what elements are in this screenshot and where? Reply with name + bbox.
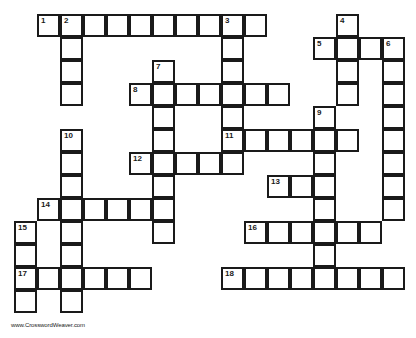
- crossword-cell[interactable]: 16: [244, 221, 267, 244]
- crossword-cell[interactable]: 3: [221, 14, 244, 37]
- crossword-cell[interactable]: 15: [14, 221, 37, 244]
- crossword-cell[interactable]: 8: [129, 83, 152, 106]
- crossword-cell[interactable]: [382, 198, 405, 221]
- crossword-cell[interactable]: [290, 129, 313, 152]
- crossword-cell[interactable]: [221, 106, 244, 129]
- crossword-cell[interactable]: [129, 267, 152, 290]
- crossword-cell[interactable]: [244, 83, 267, 106]
- crossword-cell[interactable]: [221, 83, 244, 106]
- crossword-cell[interactable]: 18: [221, 267, 244, 290]
- crossword-cell[interactable]: 2: [60, 14, 83, 37]
- crossword-cell[interactable]: [83, 198, 106, 221]
- crossword-cell[interactable]: 13: [267, 175, 290, 198]
- crossword-cell[interactable]: [198, 83, 221, 106]
- crossword-cell[interactable]: [175, 14, 198, 37]
- crossword-cell[interactable]: [336, 37, 359, 60]
- crossword-cell[interactable]: 10: [60, 129, 83, 152]
- crossword-cell[interactable]: [359, 221, 382, 244]
- crossword-cell[interactable]: [60, 175, 83, 198]
- crossword-cell[interactable]: [382, 83, 405, 106]
- crossword-cell[interactable]: [336, 267, 359, 290]
- crossword-cell[interactable]: 9: [313, 106, 336, 129]
- crossword-cell[interactable]: 11: [221, 129, 244, 152]
- crossword-cell[interactable]: [359, 267, 382, 290]
- crossword-cell[interactable]: [152, 14, 175, 37]
- crossword-cell[interactable]: [175, 83, 198, 106]
- clue-number: 12: [133, 154, 142, 163]
- crossword-cell[interactable]: [221, 60, 244, 83]
- crossword-cell[interactable]: [313, 129, 336, 152]
- crossword-cell[interactable]: [106, 198, 129, 221]
- crossword-cell[interactable]: [313, 152, 336, 175]
- clue-number: 9: [317, 108, 321, 117]
- crossword-cell[interactable]: [336, 129, 359, 152]
- clue-number: 13: [271, 177, 280, 186]
- crossword-cell[interactable]: [267, 267, 290, 290]
- crossword-cell[interactable]: 17: [14, 267, 37, 290]
- crossword-cell[interactable]: [313, 198, 336, 221]
- crossword-cell[interactable]: [37, 267, 60, 290]
- crossword-cell[interactable]: [60, 198, 83, 221]
- crossword-cell[interactable]: [152, 152, 175, 175]
- crossword-cell[interactable]: [60, 60, 83, 83]
- crossword-cell[interactable]: [60, 244, 83, 267]
- crossword-cell[interactable]: [198, 14, 221, 37]
- crossword-cell[interactable]: [175, 152, 198, 175]
- crossword-cell[interactable]: [198, 152, 221, 175]
- crossword-cell[interactable]: 12: [129, 152, 152, 175]
- crossword-cell[interactable]: [152, 198, 175, 221]
- crossword-cell[interactable]: [382, 152, 405, 175]
- crossword-cell[interactable]: [60, 290, 83, 313]
- crossword-cell[interactable]: [60, 221, 83, 244]
- crossword-cell[interactable]: [382, 60, 405, 83]
- crossword-cell[interactable]: [244, 129, 267, 152]
- crossword-cell[interactable]: [244, 267, 267, 290]
- crossword-cell[interactable]: [313, 221, 336, 244]
- crossword-cell[interactable]: [152, 221, 175, 244]
- crossword-cell[interactable]: [106, 267, 129, 290]
- crossword-cell[interactable]: [382, 129, 405, 152]
- crossword-cell[interactable]: [106, 14, 129, 37]
- crossword-cell[interactable]: [129, 14, 152, 37]
- crossword-cell[interactable]: [152, 83, 175, 106]
- crossword-cell[interactable]: 1: [37, 14, 60, 37]
- crossword-cell[interactable]: [382, 106, 405, 129]
- clue-number: 15: [18, 223, 27, 232]
- crossword-cell[interactable]: [152, 175, 175, 198]
- crossword-cell[interactable]: [336, 60, 359, 83]
- crossword-cell[interactable]: 6: [382, 37, 405, 60]
- crossword-cell[interactable]: [267, 83, 290, 106]
- crossword-cell[interactable]: [359, 37, 382, 60]
- crossword-cell[interactable]: [382, 267, 405, 290]
- crossword-cell[interactable]: [60, 267, 83, 290]
- crossword-cell[interactable]: [313, 175, 336, 198]
- crossword-cell[interactable]: [244, 14, 267, 37]
- crossword-cell[interactable]: [313, 267, 336, 290]
- crossword-cell[interactable]: [221, 152, 244, 175]
- crossword-cell[interactable]: [267, 221, 290, 244]
- crossword-cell[interactable]: 7: [152, 60, 175, 83]
- crossword-cell[interactable]: [60, 83, 83, 106]
- crossword-cell[interactable]: [14, 290, 37, 313]
- crossword-cell[interactable]: [60, 152, 83, 175]
- crossword-cell[interactable]: [382, 175, 405, 198]
- crossword-cell[interactable]: [290, 221, 313, 244]
- crossword-cell[interactable]: 4: [336, 14, 359, 37]
- crossword-cell[interactable]: [267, 129, 290, 152]
- crossword-cell[interactable]: [60, 37, 83, 60]
- crossword-cell[interactable]: 14: [37, 198, 60, 221]
- crossword-cell[interactable]: [221, 37, 244, 60]
- crossword-cell[interactable]: [14, 244, 37, 267]
- crossword-cell[interactable]: [290, 175, 313, 198]
- crossword-cell[interactable]: [336, 221, 359, 244]
- clue-number: 10: [64, 131, 73, 140]
- crossword-cell[interactable]: [336, 83, 359, 106]
- crossword-cell[interactable]: [83, 267, 106, 290]
- crossword-cell[interactable]: [313, 244, 336, 267]
- crossword-cell[interactable]: [83, 14, 106, 37]
- crossword-cell[interactable]: [152, 129, 175, 152]
- crossword-cell[interactable]: [152, 106, 175, 129]
- crossword-cell[interactable]: [290, 267, 313, 290]
- crossword-cell[interactable]: [129, 198, 152, 221]
- crossword-cell[interactable]: 5: [313, 37, 336, 60]
